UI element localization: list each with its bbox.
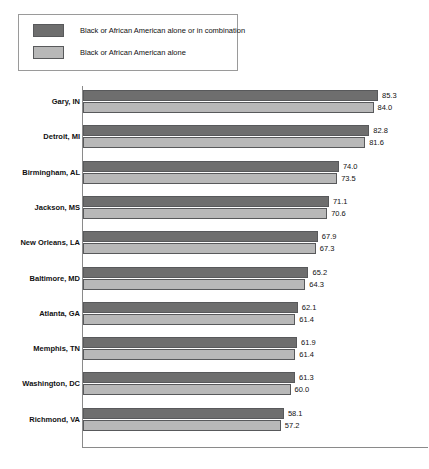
category-label: New Orleans, LA xyxy=(0,236,80,249)
bar-value-label: 61.4 xyxy=(299,314,314,325)
bar-combination xyxy=(83,408,284,419)
plot-area: Gary, IN85.384.0Detroit, MI82.881.6Birmi… xyxy=(83,90,429,447)
bar-group: Memphis, TN61.961.4 xyxy=(83,337,429,361)
category-label: Jackson, MS xyxy=(0,201,80,214)
page-title xyxy=(0,0,429,5)
category-label: Baltimore, MD xyxy=(0,272,80,285)
bar-combination xyxy=(83,90,378,101)
bar-value-label: 71.1 xyxy=(333,196,348,207)
bar-value-label: 84.0 xyxy=(378,102,393,113)
bar-value-label: 73.5 xyxy=(341,173,356,184)
category-label: Atlanta, GA xyxy=(0,307,80,320)
bar-alone xyxy=(83,102,374,113)
bar-group: Atlanta, GA62.161.4 xyxy=(83,302,429,326)
bar-alone xyxy=(83,137,365,148)
bar-combination xyxy=(83,267,308,278)
bar-alone xyxy=(83,314,295,325)
bar-group: Baltimore, MD65.264.3 xyxy=(83,267,429,291)
bar-group: Jackson, MS71.170.6 xyxy=(83,196,429,220)
bar-combination xyxy=(83,372,295,383)
bar-combination xyxy=(83,337,297,348)
bar-alone xyxy=(83,420,281,431)
bar-group: Detroit, MI82.881.6 xyxy=(83,125,429,149)
bar-value-label: 67.3 xyxy=(320,243,335,254)
bar-combination xyxy=(83,161,339,172)
bar-value-label: 61.9 xyxy=(301,337,316,348)
legend-label-alone: Black or African American alone xyxy=(80,49,186,57)
category-label: Birmingham, AL xyxy=(0,166,80,179)
bar-value-label: 61.4 xyxy=(299,349,314,360)
bar-group: Washington, DC61.360.0 xyxy=(83,372,429,396)
legend-item-combination: Black or African American alone or in co… xyxy=(33,24,245,37)
bar-value-label: 57.2 xyxy=(285,420,300,431)
bar-combination xyxy=(83,231,318,242)
bar-value-label: 82.8 xyxy=(373,125,388,136)
bar-group: New Orleans, LA67.967.3 xyxy=(83,231,429,255)
bar-value-label: 60.0 xyxy=(295,384,310,395)
bar-value-label: 85.3 xyxy=(382,90,397,101)
bar-group: Richmond, VA58.157.2 xyxy=(83,408,429,432)
chart-legend: Black or African American alone or in co… xyxy=(18,14,238,71)
bar-value-label: 62.1 xyxy=(302,302,317,313)
bar-alone xyxy=(83,173,337,184)
bar-group: Gary, IN85.384.0 xyxy=(83,90,429,114)
bar-alone xyxy=(83,349,295,360)
bar-group: Birmingham, AL74.073.5 xyxy=(83,161,429,185)
x-axis-line xyxy=(82,447,428,448)
bar-alone xyxy=(83,208,327,219)
bar-value-label: 70.6 xyxy=(331,208,346,219)
bar-value-label: 58.1 xyxy=(288,408,303,419)
bar-alone xyxy=(83,243,316,254)
bar-value-label: 67.9 xyxy=(322,231,337,242)
category-label: Richmond, VA xyxy=(0,413,80,426)
bar-value-label: 64.3 xyxy=(309,279,324,290)
bar-value-label: 61.3 xyxy=(299,372,314,383)
legend-label-combination: Black or African American alone or in co… xyxy=(80,27,245,35)
category-label: Washington, DC xyxy=(0,377,80,390)
bar-value-label: 65.2 xyxy=(312,267,327,278)
bar-chart: Black or African American alone or in co… xyxy=(0,0,429,469)
bar-alone xyxy=(83,279,305,290)
bar-value-label: 81.6 xyxy=(369,137,384,148)
bar-combination xyxy=(83,125,369,136)
bar-value-label: 74.0 xyxy=(343,161,358,172)
legend-swatch-dark-icon xyxy=(33,24,64,37)
legend-swatch-light-icon xyxy=(33,46,64,59)
category-label: Gary, IN xyxy=(0,95,80,108)
category-label: Memphis, TN xyxy=(0,342,80,355)
category-label: Detroit, MI xyxy=(0,130,80,143)
bar-combination xyxy=(83,302,298,313)
bar-combination xyxy=(83,196,329,207)
legend-item-alone: Black or African American alone xyxy=(33,46,186,59)
bar-alone xyxy=(83,384,291,395)
